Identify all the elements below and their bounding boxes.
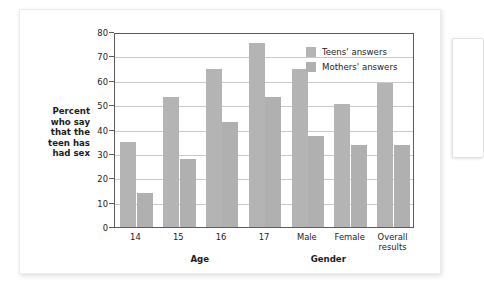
x-tick-label: 16	[200, 232, 243, 242]
bar	[308, 136, 324, 227]
x-tick-label: Overallresults	[371, 232, 414, 252]
bar	[334, 104, 350, 227]
bar	[137, 193, 153, 227]
bar	[249, 43, 265, 227]
x-tick-label: Female	[328, 232, 371, 242]
chart-card: Percent who say that the teen has had se…	[19, 9, 441, 274]
x-tick-label-line: Overall	[371, 232, 414, 242]
y-axis-label-line-1: Percent	[28, 106, 90, 117]
adjacent-panel-edge	[452, 38, 484, 158]
x-tick-label-line: 16	[200, 232, 243, 242]
y-tick-label: 60	[86, 78, 108, 86]
y-tick-label: 40	[86, 127, 108, 135]
y-tick-label: 0	[86, 224, 108, 232]
y-tick-label: 50	[86, 102, 108, 110]
bar	[394, 145, 410, 227]
legend-item-teens: Teens' answers	[306, 44, 397, 59]
legend-swatch-mothers-icon	[306, 62, 316, 72]
chart-area: Percent who say that the teen has had se…	[20, 10, 440, 273]
y-tick-label: 80	[86, 29, 108, 37]
x-tick-label-line: 15	[157, 232, 200, 242]
y-tick-label: 20	[86, 175, 108, 183]
bar	[163, 97, 179, 227]
bar	[206, 69, 222, 227]
y-tick-label: 30	[86, 151, 108, 159]
y-axis-label-line-4: teen has	[28, 138, 90, 149]
legend: Teens' answers Mothers' answers	[306, 44, 397, 74]
x-tick-label-line: 17	[243, 232, 286, 242]
x-tick-label: Male	[285, 232, 328, 242]
x-tick-label: 17	[243, 232, 286, 242]
bar	[377, 83, 393, 227]
y-axis-label-line-5: had sex	[28, 148, 90, 159]
y-tick-label: 10	[86, 200, 108, 208]
y-axis-label: Percent who say that the teen has had se…	[28, 106, 90, 159]
bar	[222, 122, 238, 227]
bar	[292, 69, 308, 227]
legend-label-teens: Teens' answers	[322, 47, 387, 57]
x-axis-group-label: Gender	[285, 254, 371, 264]
x-axis-group-label: Age	[114, 254, 285, 264]
x-tick-label-line: Female	[328, 232, 371, 242]
legend-item-mothers: Mothers' answers	[306, 59, 397, 74]
bar	[265, 97, 281, 227]
x-tick-label-line: 14	[114, 232, 157, 242]
bar	[120, 142, 136, 227]
x-tick-label: 15	[157, 232, 200, 242]
x-tick-label-line: results	[371, 242, 414, 252]
y-axis-label-line-2: who say	[28, 117, 90, 128]
legend-swatch-teens-icon	[306, 47, 316, 57]
x-tick-label-line: Male	[285, 232, 328, 242]
y-axis-label-line-3: that the	[28, 127, 90, 138]
bar	[351, 145, 367, 227]
x-tick-label: 14	[114, 232, 157, 242]
y-tick-label: 70	[86, 53, 108, 61]
legend-label-mothers: Mothers' answers	[322, 62, 397, 72]
bar	[180, 159, 196, 227]
